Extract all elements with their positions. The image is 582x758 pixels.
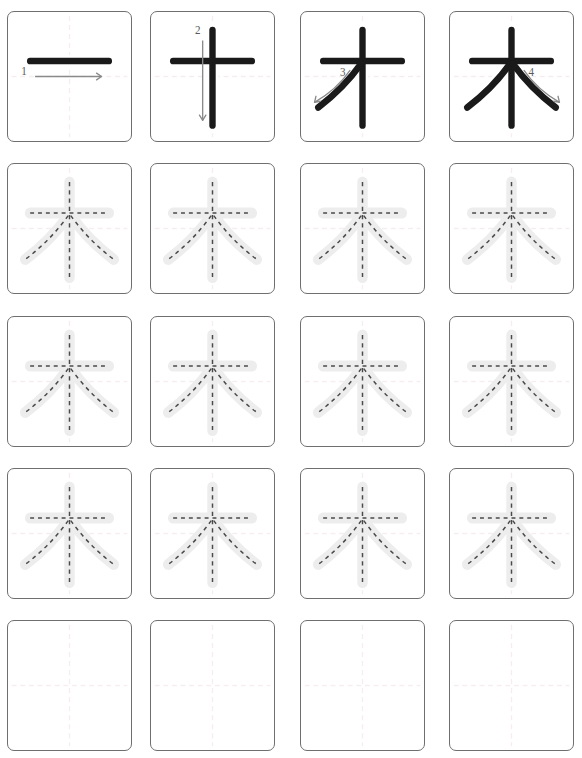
stroke-order-worksheet: 1234 xyxy=(0,0,582,758)
tracing-row xyxy=(0,316,582,450)
blank-practice-cell[interactable] xyxy=(150,620,275,751)
trace-practice-cell[interactable] xyxy=(300,163,425,294)
trace-practice-cell[interactable] xyxy=(7,468,132,599)
stroke-number: 1 xyxy=(21,65,27,77)
trace-practice-cell[interactable] xyxy=(7,316,132,447)
trace-practice-cell[interactable] xyxy=(449,468,574,599)
blank-practice-cell[interactable] xyxy=(7,620,132,751)
stroke-order-row: 1234 xyxy=(0,11,582,145)
stroke-number: 4 xyxy=(528,66,534,78)
trace-practice-cell[interactable] xyxy=(150,316,275,447)
trace-practice-cell[interactable] xyxy=(449,163,574,294)
blank-practice-cell[interactable] xyxy=(449,620,574,751)
stroke-step-cell-1[interactable]: 1 xyxy=(7,11,132,142)
trace-practice-cell[interactable] xyxy=(150,163,275,294)
trace-practice-cell[interactable] xyxy=(300,316,425,447)
trace-practice-cell[interactable] xyxy=(150,468,275,599)
trace-practice-cell[interactable] xyxy=(449,316,574,447)
trace-practice-cell[interactable] xyxy=(300,468,425,599)
trace-practice-cell[interactable] xyxy=(7,163,132,294)
stroke-step-cell-4[interactable]: 4 xyxy=(449,11,574,142)
stroke-step-cell-3[interactable]: 3 xyxy=(300,11,425,142)
tracing-row xyxy=(0,468,582,602)
blank-practice-cell[interactable] xyxy=(300,620,425,751)
tracing-row xyxy=(0,163,582,297)
stroke-number: 3 xyxy=(340,66,346,78)
stroke-step-cell-2[interactable]: 2 xyxy=(150,11,275,142)
blank-writing-row xyxy=(0,620,582,754)
stroke-number: 2 xyxy=(195,24,201,36)
